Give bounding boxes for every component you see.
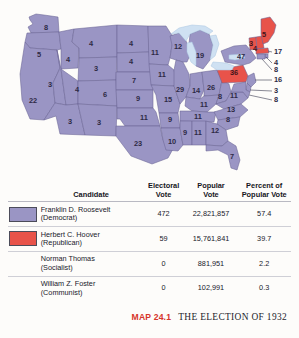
electoral-vote-ky: 11: [200, 100, 208, 109]
state-montana: [72, 25, 117, 58]
electoral-vote-ca: 22: [29, 96, 37, 105]
electoral-vote-cell: 59: [143, 227, 185, 252]
popular-vote-cell: 881,951: [185, 251, 238, 276]
row-swatch-cell: [8, 227, 40, 252]
electoral-vote-mo: 15: [164, 95, 172, 104]
table-row: Norman Thomas(Socialist)0881,9512.2: [8, 251, 291, 276]
callout-value-labels: 17481638: [274, 47, 282, 104]
header-electoral-vote: Electoral Vote: [143, 182, 185, 202]
electoral-vote-wy: 3: [94, 64, 98, 73]
row-swatch-cell: [8, 251, 40, 276]
candidate-cell: Herbert C. Hoover(Republican): [40, 227, 143, 252]
percent-cell: 2.2: [237, 251, 291, 276]
electoral-vote-cell: 472: [143, 202, 185, 227]
caption-map-number: MAP 24.1: [132, 312, 172, 322]
state-kansas: [116, 90, 153, 108]
candidate-party: (Republican): [41, 239, 142, 247]
callout-vote-de: 3: [274, 86, 278, 95]
popular-vote-cell: 22,821,857: [185, 202, 238, 227]
electoral-vote-nv: 3: [48, 80, 52, 89]
callout-vote-nj: 16: [274, 75, 282, 84]
header-percent-line2: Popular Vote: [242, 190, 287, 199]
electoral-vote-cell: 0: [143, 251, 185, 276]
popular-vote-cell: 15,761,841: [185, 227, 238, 252]
table-head: Candidate Electoral Vote Popular Vote Pe…: [8, 182, 291, 202]
header-candidate: Candidate: [40, 182, 143, 202]
electoral-vote-la: 10: [168, 137, 176, 146]
header-popular-vote-line2: Vote: [203, 190, 218, 199]
results-legend: Candidate Electoral Vote Popular Vote Pe…: [8, 182, 291, 300]
electoral-vote-fl: 7: [230, 152, 234, 161]
figure-map-24-1: 8544443346223379112311111591012291914261…: [0, 0, 299, 338]
state-massachusetts: [256, 48, 269, 54]
electoral-vote-va: 11: [230, 91, 238, 100]
electoral-vote-nm: 3: [97, 118, 101, 127]
electoral-vote-me: 5: [262, 30, 266, 39]
state-south-dakota: [117, 52, 151, 72]
electoral-vote-ga: 12: [211, 126, 219, 135]
electoral-vote-or: 5: [37, 50, 41, 59]
candidate-party: (Democrat): [41, 214, 142, 222]
percent-cell: 57.4: [237, 202, 291, 227]
electoral-vote-wi: 12: [174, 42, 182, 51]
table-row: Franklin D. Roosevelt(Democrat)47222,821…: [8, 202, 291, 227]
electoral-vote-mi: 19: [196, 51, 204, 60]
callout-vote-ct: 8: [274, 65, 278, 74]
figure-caption: MAP 24.1THE ELECTION OF 1932: [0, 306, 299, 324]
state-connecticut: [257, 54, 265, 59]
electoral-vote-in: 14: [192, 86, 201, 95]
candidate-cell: Franklin D. Roosevelt(Democrat): [40, 202, 143, 227]
electoral-vote-ia: 11: [158, 70, 166, 79]
election-results-table: Candidate Electoral Vote Popular Vote Pe…: [8, 182, 291, 300]
header-electoral-vote-line2: Vote: [156, 190, 171, 199]
electoral-vote-nh: 3: [249, 39, 253, 48]
state-florida: [206, 141, 240, 170]
electoral-vote-ne: 7: [132, 76, 136, 85]
electoral-vote-tn: 11: [194, 112, 202, 121]
header-percent-popular-vote: Percent of Popular Vote: [237, 182, 291, 202]
electoral-vote-ms: 9: [183, 128, 187, 137]
percent-cell: 39.7: [237, 227, 291, 252]
republican-swatch: [9, 231, 37, 246]
candidate-cell: Norman Thomas(Socialist): [40, 251, 143, 276]
percent-cell: 0.3: [237, 276, 291, 300]
table-row: William Z. Foster(Communist)0102,9910.3: [8, 276, 291, 300]
democrat-swatch: [9, 207, 37, 222]
electoral-vote-wv: 8: [218, 92, 222, 101]
electoral-vote-cell: 0: [143, 276, 185, 300]
header-swatch: [8, 182, 40, 202]
popular-vote-cell: 102,991: [185, 276, 238, 300]
header-popular-vote: Popular Vote: [185, 182, 238, 202]
electoral-vote-ks: 9: [136, 94, 140, 103]
electoral-vote-sc: 8: [226, 115, 230, 124]
map-svg: 8544443346223379112311111591012291914261…: [0, 0, 299, 180]
state-oregon: [25, 32, 61, 50]
electoral-vote-ny: 47: [237, 52, 245, 61]
electoral-vote-ar: 9: [168, 115, 172, 124]
electoral-vote-nc: 13: [227, 105, 235, 114]
table-header-row: Candidate Electoral Vote Popular Vote Pe…: [8, 182, 291, 202]
electoral-vote-pa: 36: [230, 68, 238, 77]
callout-vote-md: 8: [274, 95, 278, 104]
electoral-vote-ok: 11: [140, 113, 148, 122]
table-row: Herbert C. Hoover(Republican)5915,761,84…: [8, 227, 291, 252]
electoral-vote-tx: 23: [134, 139, 142, 148]
electoral-map: 8544443346223379112311111591012291914261…: [0, 0, 299, 180]
callout-vote-ma: 17: [274, 47, 282, 56]
electoral-vote-wa: 8: [44, 23, 48, 32]
electoral-vote-co: 6: [103, 90, 107, 99]
candidate-party: (Socialist): [41, 264, 142, 272]
electoral-vote-oh: 26: [207, 83, 215, 92]
electoral-vote-mn: 11: [151, 48, 159, 57]
caption-map-title: THE ELECTION OF 1932: [178, 312, 287, 322]
electoral-vote-al: 11: [194, 128, 202, 137]
candidate-party: (Communist): [41, 289, 142, 297]
candidate-cell: William Z. Foster(Communist): [40, 276, 143, 300]
electoral-vote-az: 3: [68, 117, 72, 126]
row-swatch-cell: [8, 202, 40, 227]
state-oklahoma: [117, 108, 160, 126]
state-colorado: [78, 80, 117, 106]
row-swatch-cell: [8, 276, 40, 300]
table-body: Franklin D. Roosevelt(Democrat)47222,821…: [8, 202, 291, 301]
electoral-vote-il: 29: [176, 85, 184, 94]
